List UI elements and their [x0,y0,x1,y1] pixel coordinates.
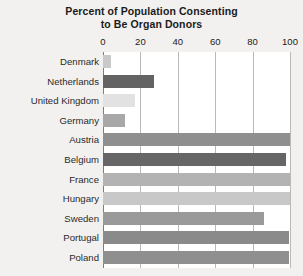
bar-belgium [103,153,286,166]
category-label-portugal: Portugal [0,231,99,244]
bar-germany [103,114,125,127]
bar-france [103,173,290,186]
chart-title: Percent of Population Consenting to Be O… [0,5,303,31]
category-label-germany: Germany [0,114,99,127]
x-tick-label-20: 20 [135,36,146,47]
category-labels: DenmarkNetherlandsUnited KingdomGermanyA… [0,52,99,268]
category-label-united-kingdom: United Kingdom [0,94,99,107]
category-label-netherlands: Netherlands [0,75,99,88]
x-tick-label-60: 60 [210,36,221,47]
bars-layer [103,52,290,268]
bar-sweden [103,212,264,225]
chart-title-line-1: Percent of Population Consenting [0,5,303,18]
x-tick-label-40: 40 [173,36,184,47]
chart-title-line-2: to Be Organ Donors [0,18,303,31]
category-label-hungary: Hungary [0,192,99,205]
x-tick-label-80: 80 [247,36,258,47]
x-axis-tick-labels: 020406080100 [103,36,290,50]
bar-united-kingdom [103,94,135,107]
category-label-poland: Poland [0,251,99,264]
bar-poland [103,251,289,264]
bar-hungary [103,192,290,205]
bar-denmark [103,55,111,68]
plot-area [103,52,290,268]
category-label-austria: Austria [0,133,99,146]
organ-donor-bar-chart: Percent of Population Consenting to Be O… [0,0,303,276]
category-label-belgium: Belgium [0,153,99,166]
category-label-denmark: Denmark [0,55,99,68]
category-label-sweden: Sweden [0,212,99,225]
gridline-100 [290,52,291,268]
x-tick-label-0: 0 [100,36,105,47]
bar-austria [103,133,290,146]
category-label-france: France [0,173,99,186]
bar-portugal [103,231,289,244]
bar-netherlands [103,75,154,88]
x-tick-label-100: 100 [282,36,298,47]
